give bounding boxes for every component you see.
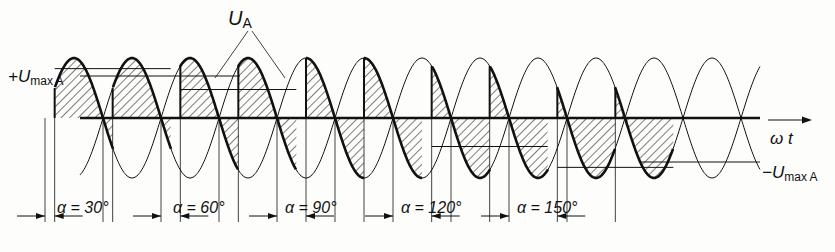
pos-max-label: +Umax A: [8, 67, 64, 88]
alpha-label-90: α = 90°: [285, 199, 337, 216]
alpha-label-120: α = 120°: [401, 199, 462, 216]
neg-max-label: −Umax A: [762, 163, 818, 184]
controlled-rectifier-diagram: α = 30°α = 60°α = 90°α = 120°α = 150° UA…: [0, 0, 835, 252]
alpha-label-30: α = 30°: [57, 199, 109, 216]
ua-label: UA: [228, 7, 252, 31]
waveform-canvas: α = 30°α = 60°α = 90°α = 120°α = 150° UA…: [0, 0, 835, 252]
alpha-label-150: α = 150°: [517, 199, 578, 216]
omega-t-label: ω t: [770, 129, 794, 148]
alpha-label-60: α = 60°: [173, 199, 225, 216]
